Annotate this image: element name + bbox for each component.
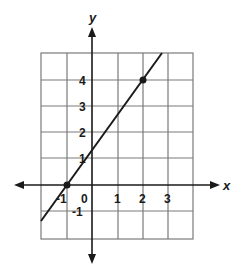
y-tick-neg1: -1 bbox=[72, 205, 83, 219]
axes bbox=[20, 33, 214, 258]
y-tick-4: 4 bbox=[79, 74, 86, 88]
y-tick-3: 3 bbox=[79, 100, 86, 114]
y-axis-label: y bbox=[88, 10, 97, 25]
y-axis-down-arrow-icon bbox=[88, 254, 96, 264]
x-axis-label: x bbox=[222, 178, 231, 193]
point-2-4 bbox=[140, 77, 147, 84]
origin-label: 0 bbox=[81, 192, 88, 206]
x-tick-1: 1 bbox=[114, 192, 121, 206]
y-tick-2: 2 bbox=[79, 126, 86, 140]
x-axis-right-arrow-icon bbox=[210, 181, 220, 189]
grid bbox=[41, 53, 193, 239]
x-axis-left-arrow-icon bbox=[14, 181, 24, 189]
point-neg1-0 bbox=[64, 182, 71, 189]
x-tick-neg1: -1 bbox=[56, 192, 67, 206]
coordinate-plane: y x -1 0 1 2 3 4 3 2 1 -1 bbox=[0, 0, 248, 268]
y-tick-1: 1 bbox=[79, 152, 86, 166]
x-tick-3: 3 bbox=[164, 192, 171, 206]
y-axis-up-arrow-icon bbox=[88, 27, 96, 37]
x-tick-2: 2 bbox=[139, 192, 146, 206]
